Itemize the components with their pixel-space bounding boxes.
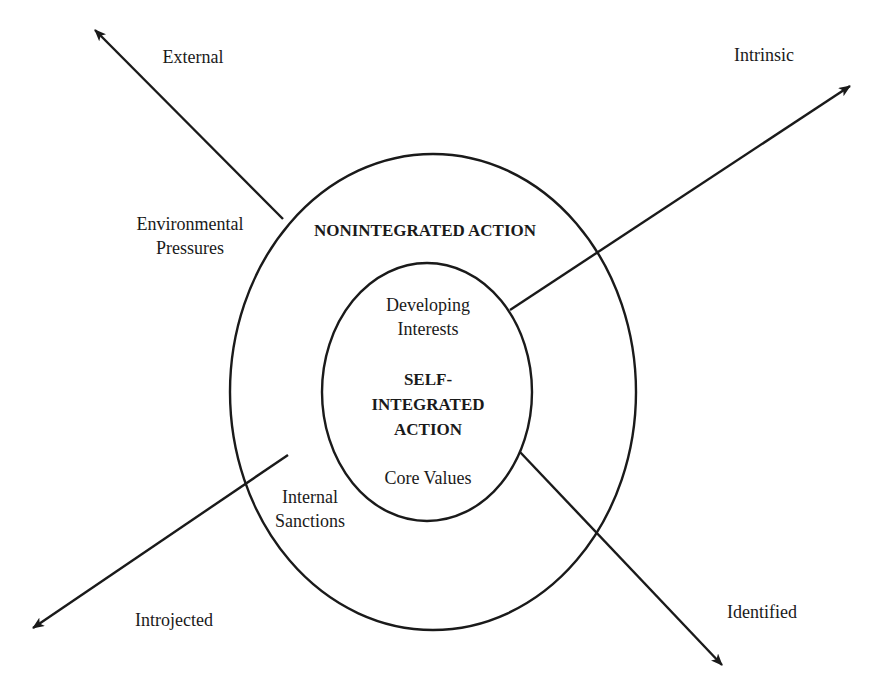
self-integrated-line-3: ACTION (371, 417, 484, 442)
core-values-label: Core Values (384, 466, 471, 490)
internal-line-1: Internal (275, 485, 345, 509)
developing-line-1: Developing (386, 293, 470, 317)
arrow-label-intrinsic: Intrinsic (734, 43, 794, 67)
arrow-label-introjected: Introjected (135, 608, 213, 632)
internal-line-2: Sanctions (275, 509, 345, 533)
self-integrated-line-2: INTEGRATED (371, 392, 484, 417)
environmental-line-1: Environmental (137, 212, 244, 236)
arrow-label-identified: Identified (727, 600, 797, 624)
self-integrated-line-1: SELF- (371, 367, 484, 392)
internal-sanctions-label: Internal Sanctions (275, 485, 345, 533)
environmental-pressures-label: Environmental Pressures (137, 212, 244, 260)
motivation-diagram: External Intrinsic Introjected Identifie… (0, 0, 869, 684)
environmental-line-2: Pressures (137, 236, 244, 260)
developing-interests-label: Developing Interests (386, 293, 470, 341)
arrow-intrinsic (510, 86, 850, 310)
self-integrated-action-title: SELF- INTEGRATED ACTION (371, 367, 484, 442)
nonintegrated-action-title: NONINTEGRATED ACTION (314, 218, 536, 243)
arrow-introjected (33, 455, 288, 628)
developing-line-2: Interests (386, 317, 470, 341)
arrow-label-external: External (163, 45, 224, 69)
diagram-graphics (0, 0, 869, 684)
